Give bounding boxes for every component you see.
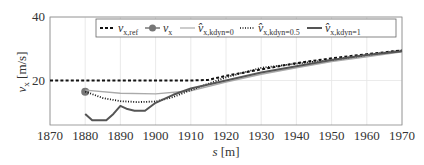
legend: vx,ref vx v̂x,kdyn=0 v̂x,kdyn=0.5 v̂x,kd… — [96, 19, 396, 37]
x-axis-label: s [m] — [212, 144, 239, 159]
y-tick: 40 — [32, 9, 45, 24]
x-tick: 1940 — [283, 128, 309, 143]
x-tick: 1930 — [248, 128, 274, 143]
x-tick: 1870 — [37, 128, 63, 143]
x-tick: 1890 — [107, 128, 133, 143]
x-tick: 1950 — [319, 128, 345, 143]
x-tick-labels: 1870188018901900191019201930194019501960… — [37, 128, 415, 143]
x-tick: 1880 — [72, 128, 98, 143]
x-tick: 1960 — [354, 128, 380, 143]
x-tick: 1900 — [143, 128, 169, 143]
x-tick: 1920 — [213, 128, 239, 143]
velocity-chart: 1870188018901900191019201930194019501960… — [0, 0, 424, 165]
y-axis-label: vx [m/s] — [14, 52, 31, 93]
y-tick-labels: 2040 — [32, 9, 45, 88]
y-tick: 20 — [32, 73, 45, 88]
x-tick: 1910 — [178, 128, 204, 143]
x-tick: 1970 — [389, 128, 415, 143]
series-line — [85, 51, 402, 120]
